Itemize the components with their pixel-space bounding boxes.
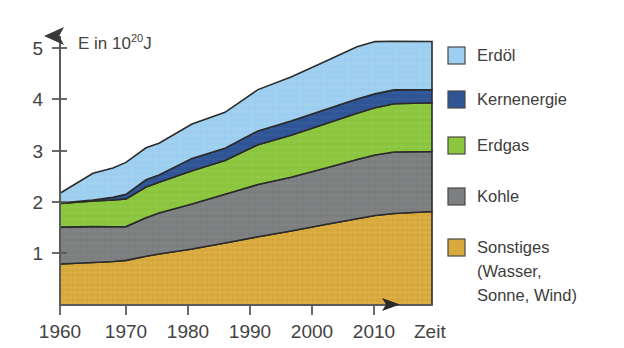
legend-item-kernenergie[interactable]: Kernenergie: [448, 90, 567, 108]
legend-swatch-erdgas: [448, 137, 465, 154]
legend-swatch-sonstiges: [448, 239, 465, 256]
legend-item-erdoel[interactable]: Erdöl: [448, 46, 516, 64]
chart-canvas: 5 4 3 2 1 E in 1020J 1960 1970 1980 1990…: [0, 0, 624, 348]
legend-label-kernenergie: Kernenergie: [477, 90, 567, 108]
y-tick-label-2: 2: [32, 192, 43, 213]
y-axis-title-exponent: 20: [131, 32, 143, 44]
y-tick-label-4: 4: [32, 89, 43, 110]
x-tick-label-2000: 2000: [291, 321, 333, 342]
x-tick-label-1960: 1960: [39, 321, 81, 342]
legend-item-sonstiges[interactable]: Sonstiges (Wasser, Sonne, Wind): [448, 238, 577, 304]
y-tick-label-1: 1: [32, 243, 43, 264]
legend-item-kohle[interactable]: Kohle: [448, 187, 519, 205]
legend-label-sonstiges: Sonstiges: [477, 238, 549, 256]
x-tick-label-1970: 1970: [105, 321, 147, 342]
area-layers: [60, 41, 432, 305]
x-tick-label-2010: 2010: [353, 321, 395, 342]
y-tick-label-3: 3: [32, 141, 43, 162]
legend-label-sonstiges-line2: (Wasser,: [477, 262, 541, 280]
legend-label-erdgas: Erdgas: [477, 136, 529, 154]
x-axis-title: Zeit: [414, 321, 446, 342]
legend: Erdöl Kernenergie Erdgas Kohle Sonstiges…: [448, 46, 577, 304]
stacked-area-chart: 5 4 3 2 1 E in 1020J 1960 1970 1980 1990…: [0, 0, 624, 348]
y-axis-title-unit: J: [143, 34, 152, 53]
x-tick-label-1990: 1990: [229, 321, 271, 342]
y-axis-title-main: E in 10: [78, 34, 131, 53]
y-axis-title: E in 1020J: [78, 32, 152, 53]
legend-label-kohle: Kohle: [477, 187, 519, 205]
legend-label-sonstiges-line3: Sonne, Wind): [477, 286, 577, 304]
legend-item-erdgas[interactable]: Erdgas: [448, 136, 529, 154]
legend-swatch-erdoel: [448, 47, 465, 64]
x-tick-label-1980: 1980: [167, 321, 209, 342]
y-tick-label-5: 5: [32, 38, 43, 59]
legend-swatch-kernenergie: [448, 91, 465, 108]
legend-swatch-kohle: [448, 188, 465, 205]
legend-label-erdoel: Erdöl: [477, 46, 516, 64]
